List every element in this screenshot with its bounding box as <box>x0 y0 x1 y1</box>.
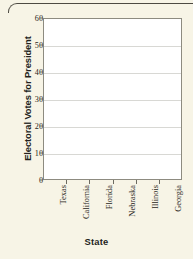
y-tick-mark <box>40 45 43 46</box>
y-axis-ticks: 0102030405060 <box>20 18 43 180</box>
x-category-label: Nebraska <box>128 185 137 217</box>
x-category-label: Illinois <box>151 185 160 209</box>
y-tick-mark <box>40 153 43 154</box>
gridline <box>44 73 181 74</box>
gridline <box>44 154 181 155</box>
x-tick-mark <box>136 180 137 184</box>
y-tick-mark <box>40 99 43 100</box>
x-tick-mark <box>113 180 114 184</box>
x-tick-mark <box>66 180 67 184</box>
figure-frame-border <box>8 3 193 13</box>
x-category-label: California <box>82 185 91 219</box>
y-tick-mark <box>40 18 43 19</box>
x-category-label: Texas <box>59 185 68 204</box>
plot-area <box>43 18 182 180</box>
y-tick-mark <box>40 72 43 73</box>
x-category-label: Florida <box>105 185 114 209</box>
x-tick-mark <box>89 180 90 184</box>
gridline <box>44 100 181 101</box>
y-tick-mark <box>40 126 43 127</box>
x-axis-category-labels: TexasCaliforniaFloridaNebraskaIllinoisGe… <box>43 185 182 233</box>
x-tick-mark <box>159 180 160 184</box>
chart-figure: Electoral Votes for President 0102030405… <box>0 0 193 259</box>
x-category-label: Georgia <box>174 185 183 212</box>
gridline <box>44 46 181 47</box>
x-axis-title: State <box>0 236 193 247</box>
gridline <box>44 127 181 128</box>
